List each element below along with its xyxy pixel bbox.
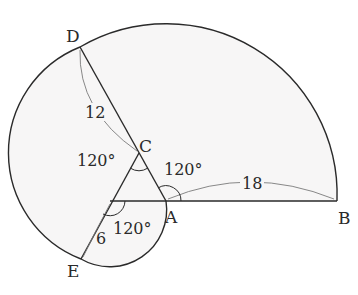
geometry-figure: D C A B E 12 18 6 120° 120° 120° bbox=[0, 0, 358, 295]
label-C: C bbox=[139, 136, 152, 156]
label-B: B bbox=[338, 208, 351, 228]
shaded-region bbox=[8, 24, 337, 267]
angle-C: 120° bbox=[77, 151, 116, 170]
length-CD: 12 bbox=[85, 103, 105, 122]
angle-bottom: 120° bbox=[113, 219, 152, 238]
angle-A: 120° bbox=[164, 160, 203, 179]
length-E-side: 6 bbox=[96, 229, 106, 248]
length-AB: 18 bbox=[242, 174, 262, 193]
label-A: A bbox=[164, 207, 178, 227]
label-D: D bbox=[66, 26, 80, 46]
label-E: E bbox=[67, 261, 79, 281]
